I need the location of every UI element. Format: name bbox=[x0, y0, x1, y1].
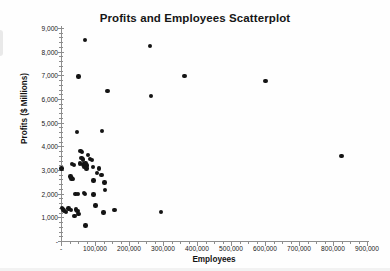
data-point bbox=[159, 210, 163, 214]
x-tick-minor bbox=[87, 241, 88, 244]
plot-area bbox=[61, 28, 367, 241]
y-tick-label: 1,000 bbox=[24, 214, 58, 221]
data-point bbox=[83, 192, 87, 196]
x-tick-minor bbox=[325, 241, 326, 244]
data-point bbox=[339, 154, 343, 158]
data-point bbox=[93, 203, 97, 207]
x-tick-minor bbox=[223, 241, 224, 244]
x-tick-minor bbox=[291, 241, 292, 244]
x-tick-label: 100,000 bbox=[83, 245, 107, 252]
data-point bbox=[59, 166, 63, 170]
x-tick-minor bbox=[189, 241, 190, 244]
data-point bbox=[84, 166, 88, 170]
data-point bbox=[76, 192, 80, 196]
data-point bbox=[80, 150, 84, 154]
data-point bbox=[83, 38, 87, 42]
y-axis-title: Profits ($ Millions) bbox=[20, 49, 29, 169]
y-tick-label: 9,000 bbox=[24, 25, 58, 32]
data-point bbox=[83, 223, 87, 227]
x-tick-minor bbox=[121, 241, 122, 244]
data-point bbox=[69, 208, 73, 212]
y-tick-label: 2,000 bbox=[24, 190, 58, 197]
data-point bbox=[75, 130, 79, 134]
data-point bbox=[71, 177, 75, 181]
x-tick-minor bbox=[138, 241, 139, 244]
chart-title: Profits and Employees Scatterplot bbox=[0, 12, 390, 24]
data-point bbox=[103, 188, 107, 192]
y-tick-label: 3,000 bbox=[24, 167, 58, 174]
data-point bbox=[97, 166, 101, 170]
data-point bbox=[112, 208, 116, 212]
data-point bbox=[102, 180, 106, 184]
data-point bbox=[72, 163, 76, 167]
x-tick-label: 200,000 bbox=[117, 245, 141, 252]
x-tick-minor bbox=[112, 241, 113, 244]
data-point bbox=[182, 74, 186, 78]
x-tick-minor bbox=[248, 241, 249, 244]
x-tick-minor bbox=[146, 241, 147, 244]
x-tick-minor bbox=[308, 241, 309, 244]
x-tick-minor bbox=[240, 241, 241, 244]
x-tick-minor bbox=[316, 241, 317, 244]
x-tick-minor bbox=[172, 241, 173, 244]
data-point bbox=[101, 210, 105, 214]
x-tick-minor bbox=[78, 241, 79, 244]
x-tick-minor bbox=[70, 241, 71, 244]
x-tick-label: 800,000 bbox=[321, 245, 345, 252]
data-point bbox=[263, 79, 267, 83]
y-tick-label: - bbox=[24, 238, 58, 245]
data-point bbox=[91, 178, 95, 182]
x-tick-label: 500,000 bbox=[219, 245, 243, 252]
x-tick-minor bbox=[350, 241, 351, 244]
x-tick-label: 300,000 bbox=[151, 245, 175, 252]
data-point bbox=[149, 94, 153, 98]
x-tick-label: - bbox=[60, 245, 62, 252]
x-tick-minor bbox=[206, 241, 207, 244]
data-point bbox=[100, 129, 104, 133]
x-tick-minor bbox=[282, 241, 283, 244]
data-point bbox=[76, 74, 80, 78]
x-tick-minor bbox=[274, 241, 275, 244]
data-point bbox=[91, 165, 95, 169]
data-point bbox=[148, 44, 152, 48]
x-tick-minor bbox=[214, 241, 215, 244]
scatter-chart: Profits and Employees Scatterplot -1,000… bbox=[0, 0, 390, 271]
data-point bbox=[99, 173, 103, 177]
x-tick-minor bbox=[257, 241, 258, 244]
x-axis-title: Employees bbox=[61, 255, 367, 264]
x-tick-minor bbox=[104, 241, 105, 244]
y-tick-label: 5,000 bbox=[24, 119, 58, 126]
data-point bbox=[76, 212, 80, 216]
x-tick-label: 400,000 bbox=[185, 245, 209, 252]
x-tick-minor bbox=[155, 241, 156, 244]
x-tick-minor bbox=[342, 241, 343, 244]
data-point bbox=[91, 192, 95, 196]
x-tick-minor bbox=[359, 241, 360, 244]
y-tick-label: 4,000 bbox=[24, 143, 58, 150]
data-point bbox=[90, 158, 94, 162]
data-point bbox=[105, 89, 109, 93]
x-tick-label: 900,000 bbox=[355, 245, 379, 252]
x-tick-label: 700,000 bbox=[287, 245, 311, 252]
x-tick-minor bbox=[180, 241, 181, 244]
y-tick-label: 8,000 bbox=[24, 48, 58, 55]
y-tick-label: 7,000 bbox=[24, 72, 58, 79]
x-tick-label: 600,000 bbox=[253, 245, 277, 252]
y-tick-label: 6,000 bbox=[24, 96, 58, 103]
